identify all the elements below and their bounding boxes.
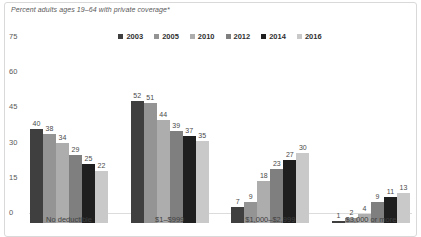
- bar-value-label: 51: [146, 94, 154, 101]
- bar-2003: [30, 129, 43, 223]
- legend-label: 2003: [126, 32, 143, 41]
- legend-item-2010: 2010: [190, 32, 215, 41]
- legend-label: 2005: [162, 32, 179, 41]
- y-tick-label: 75: [9, 32, 25, 42]
- bar-2003: [131, 101, 144, 223]
- bar-column: 40: [30, 120, 43, 223]
- y-tick-label: 0: [9, 208, 25, 218]
- bar-column: 38: [43, 125, 56, 223]
- bar-value-label: 4: [363, 205, 367, 212]
- legend-marker: [261, 34, 266, 39]
- legend-marker: [297, 34, 302, 39]
- legend-marker: [118, 34, 123, 39]
- bar-value-label: 9: [376, 193, 380, 200]
- y-tick-label: 45: [9, 102, 25, 112]
- bar-group: 525144393735: [131, 92, 209, 223]
- bar-group: 7918232730: [231, 144, 309, 223]
- bar-column: 37: [183, 127, 196, 223]
- bar-value-label: 25: [85, 155, 93, 162]
- bar-2010: [157, 120, 170, 223]
- bar-column: 52: [131, 92, 144, 223]
- bar-value-label: 39: [172, 122, 180, 129]
- bar-column: 29: [69, 146, 82, 223]
- chart-card: Percent adults ages 19–64 with private c…: [4, 2, 417, 230]
- legend: 200320052010201220142016: [30, 32, 410, 41]
- bar-column: 30: [296, 144, 309, 223]
- legend-label: 2010: [198, 32, 215, 41]
- bar-2010: [56, 143, 69, 223]
- bar-value-label: 38: [46, 125, 54, 132]
- bar-value-label: 22: [98, 162, 106, 169]
- bar-value-label: 11: [387, 188, 394, 195]
- legend-item-2005: 2005: [154, 32, 179, 41]
- bar-column: 25: [82, 155, 95, 223]
- bar-value-label: 9: [249, 193, 253, 200]
- bar-value-label: 27: [286, 151, 294, 158]
- y-tick-label: 30: [9, 138, 25, 148]
- bar-2005: [144, 103, 157, 223]
- bar-value-label: 37: [185, 127, 193, 134]
- bar-column: 39: [170, 122, 183, 223]
- bar-value-label: 18: [260, 172, 268, 179]
- legend-item-2012: 2012: [226, 32, 251, 41]
- bar-value-label: 52: [133, 92, 141, 99]
- y-tick-label: 15: [9, 173, 25, 183]
- bar-value-label: 35: [198, 132, 206, 139]
- bar-2012: [170, 131, 183, 223]
- bar-value-label: 40: [33, 120, 41, 127]
- legend-marker: [226, 34, 231, 39]
- bar-value-label: 44: [159, 111, 167, 118]
- legend-label: 2016: [305, 32, 322, 41]
- bar-2016: [196, 141, 209, 223]
- bar-column: 35: [196, 132, 209, 223]
- bar-value-label: 34: [59, 134, 67, 141]
- legend-marker: [190, 34, 195, 39]
- bar-column: 44: [157, 111, 170, 223]
- bar-groups: 4038342925225251443937357918232730124911…: [30, 47, 410, 223]
- bar-2016: [296, 153, 309, 223]
- legend-label: 2012: [234, 32, 251, 41]
- y-tick-label: 60: [9, 67, 25, 77]
- chart-title: Percent adults ages 19–64 with private c…: [11, 6, 170, 13]
- bar-column: 22: [95, 162, 108, 223]
- bar-value-label: 23: [273, 160, 281, 167]
- bar-2014: [183, 136, 196, 223]
- bar-column: 23: [270, 160, 283, 223]
- x-category-label: $1,000–$2,999: [231, 215, 309, 226]
- bar-value-label: 30: [299, 144, 307, 151]
- legend-item-2003: 2003: [118, 32, 143, 41]
- bar-column: 27: [283, 151, 296, 223]
- bar-2012: [69, 155, 82, 223]
- x-axis-labels: No deductible$1–$999$1,000–$2,999$3,000 …: [30, 215, 410, 226]
- bar-value-label: 13: [400, 184, 408, 191]
- bar-2005: [43, 134, 56, 223]
- legend-marker: [154, 34, 159, 39]
- bar-group: 403834292522: [30, 120, 108, 223]
- bar-column: 34: [56, 134, 69, 223]
- bar-2014: [283, 160, 296, 223]
- bar-column: 51: [144, 94, 157, 223]
- legend-item-2014: 2014: [261, 32, 286, 41]
- bar-value-label: 7: [236, 198, 240, 205]
- bar-value-label: 29: [72, 146, 80, 153]
- legend-label: 2014: [269, 32, 286, 41]
- x-category-label: $3,000 or more: [332, 215, 410, 226]
- x-category-label: $1–$999: [131, 215, 209, 226]
- x-category-label: No deductible: [30, 215, 108, 226]
- legend-item-2016: 2016: [297, 32, 322, 41]
